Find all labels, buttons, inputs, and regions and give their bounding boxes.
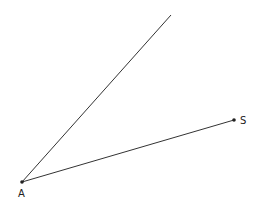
ray-upper	[22, 15, 171, 182]
geometry-canvas: A S	[0, 0, 271, 211]
point-S[interactable]	[232, 118, 236, 122]
segment-AS	[22, 120, 234, 182]
label-S: S	[240, 115, 246, 126]
label-A: A	[18, 188, 25, 199]
point-A[interactable]	[20, 180, 24, 184]
